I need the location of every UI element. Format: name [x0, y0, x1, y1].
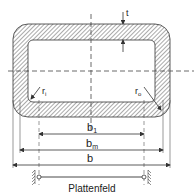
section-diagram: t ri ro b1 bm b Plattenfeld: [0, 0, 194, 196]
plate-field-label: Plattenfeld: [68, 183, 115, 194]
b1-label: b1: [87, 121, 97, 134]
thickness-label: t: [126, 8, 129, 18]
left-support-hinge: [37, 175, 41, 179]
outer-radius-label: ro: [135, 86, 142, 97]
b-label: b: [87, 152, 93, 164]
section-wall: [13, 24, 170, 117]
left-support-hatch: [32, 170, 35, 185]
right-support-hinge: [142, 175, 146, 179]
inner-radius-label: ri: [42, 86, 46, 97]
inner-radius-arrow: [31, 87, 40, 99]
right-support-hatch: [148, 170, 151, 185]
bm-label: bm: [86, 137, 98, 150]
